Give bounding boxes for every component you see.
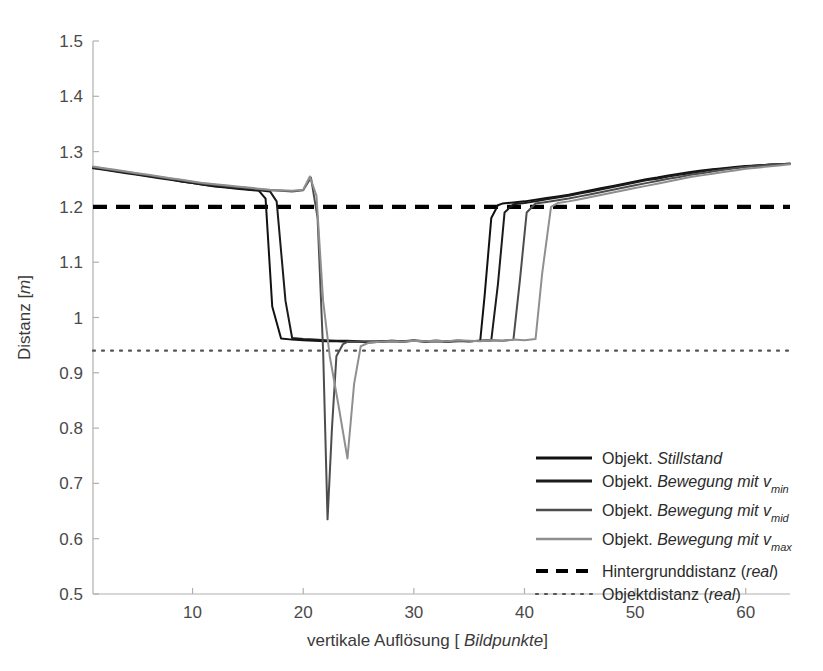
y-axis-title-text: Distanz [m] <box>15 275 34 360</box>
x-axis-title: vertikale Auflösung [ Bildpunkte] <box>307 631 548 650</box>
y-tick-label: 1.2 <box>59 198 83 217</box>
chart-figure: 0.50.60.70.80.911.11.21.31.41.5 10203040… <box>0 0 823 671</box>
y-tick-label: 0.6 <box>59 530 83 549</box>
y-tick-label: 1 <box>74 309 83 328</box>
x-tick-label: 20 <box>294 603 313 622</box>
y-axis-title: Distanz [m] <box>15 275 34 360</box>
x-tick-label: 60 <box>736 603 755 622</box>
y-tick-label: 0.5 <box>59 585 83 604</box>
legend-item-objektdistanz-label: Objektdistanz (real) <box>602 586 741 603</box>
y-tick-label: 1.5 <box>59 32 83 51</box>
distance-vs-vertical-resolution-chart: 0.50.60.70.80.911.11.21.31.41.5 10203040… <box>0 0 823 671</box>
x-tick-label: 10 <box>183 603 202 622</box>
y-tick-label: 0.7 <box>59 474 83 493</box>
legend-item-stillstand-label: Objekt. Stillstand <box>602 450 723 467</box>
y-tick-label: 0.9 <box>59 364 83 383</box>
y-tick-label: 1.1 <box>59 253 83 272</box>
y-tick-label: 1.4 <box>59 87 83 106</box>
x-tick-label: 30 <box>404 603 423 622</box>
x-tick-label: 40 <box>515 603 534 622</box>
y-tick-label: 1.3 <box>59 143 83 162</box>
x-axis-title-text: vertikale Auflösung [ Bildpunkte] <box>307 631 548 650</box>
x-tick-label: 50 <box>626 603 645 622</box>
y-tick-label: 0.8 <box>59 419 83 438</box>
legend-item-hintergrunddistanz-label: Hintergrunddistanz (real) <box>602 563 778 580</box>
